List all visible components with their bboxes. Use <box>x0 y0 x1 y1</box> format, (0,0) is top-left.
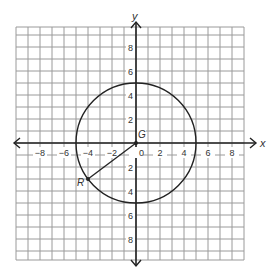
coordinate-plane: xy −8−6−4−20246886422468 GR <box>0 0 270 271</box>
y-axis-label: y <box>131 10 139 22</box>
graph-svg: xy −8−6−4−20246886422468 GR <box>0 0 270 271</box>
center-label-g: G <box>138 129 146 140</box>
y-tick-label: 2 <box>128 163 133 173</box>
x-tick-label: −4 <box>83 148 93 158</box>
y-tick-label: 6 <box>128 67 133 77</box>
x-axis-label: x <box>259 137 266 149</box>
x-tick-label: 0 <box>139 148 144 158</box>
y-tick-label: 6 <box>128 211 133 221</box>
x-tick-label: 2 <box>157 148 162 158</box>
x-tick-label: −6 <box>59 148 69 158</box>
x-tick-label: 4 <box>181 148 186 158</box>
y-tick-label: 8 <box>128 43 133 53</box>
x-tick-label: 8 <box>229 148 234 158</box>
y-tick-label: 4 <box>128 91 133 101</box>
point-r <box>86 177 90 181</box>
y-tick-label: 8 <box>128 235 133 245</box>
x-tick-label: −8 <box>35 148 45 158</box>
y-tick-label: 2 <box>128 115 133 125</box>
x-tick-label: −2 <box>107 148 117 158</box>
y-tick-label: 4 <box>128 187 133 197</box>
center-point-g <box>134 141 138 145</box>
point-label-r: R <box>77 177 84 188</box>
x-tick-label: 6 <box>205 148 210 158</box>
